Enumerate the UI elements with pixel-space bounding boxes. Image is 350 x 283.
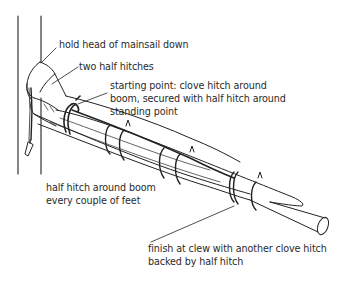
label-hold-head: hold head of mainsail down [59,38,189,51]
label-finish: finish at clew with another clove hitch … [148,242,327,268]
label-two-half-hitches: two half hitches [79,60,154,73]
label-half-hitch-boom: half hitch around boom every couple of f… [46,181,156,207]
sail-head [27,62,66,126]
sail-lashing-diagram: hold head of mainsail down two half hitc… [0,0,350,283]
head-lashing [25,88,33,156]
label-starting-point: starting point: clove hitch around boom,… [110,79,286,118]
leader-lines [41,48,234,242]
